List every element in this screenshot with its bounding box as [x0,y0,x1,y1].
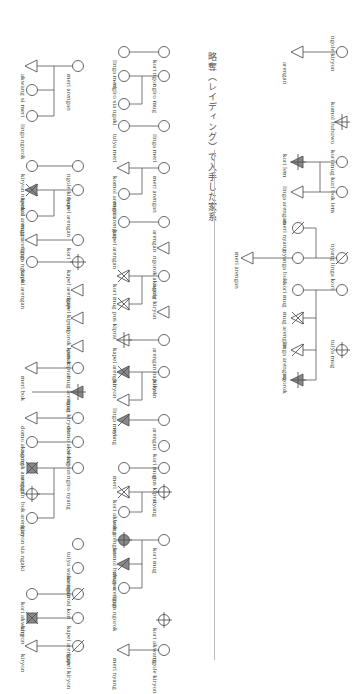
person-name-label: ngole kiryon [151,284,158,320]
person-name-label: kori ngor [151,60,158,86]
triangle-symbol-icon [25,60,37,72]
triangle-symbol-icon [291,46,303,58]
triangle-symbol-icon [241,252,253,264]
circle-symbol-icon [159,71,170,82]
person-name-label: linga meri [151,134,158,163]
person-name-label: si kori [65,602,72,620]
circle-symbol-icon [159,217,170,228]
circle-symbol-icon [27,111,38,122]
circle-symbol-icon [159,441,170,452]
circle-symbol-icon [27,161,38,172]
person-name-label: meri [111,476,118,489]
person-name-label: kori mug [151,548,158,573]
circle-symbol-icon [119,71,130,82]
person-name-label: kapel kiryon [65,654,72,689]
triangle-symbol-icon [117,644,129,656]
person-name-label: kiryon [111,380,118,398]
circle-symbol-icon [159,463,170,474]
person-name-label: kori lem [281,154,288,178]
person-name-label: nyang linga kori [329,244,336,290]
triangle-symbol-icon [291,344,304,356]
circle-symbol-icon [337,157,348,168]
person-name-label: ngole kiryon [329,36,336,72]
person-name-label: si kiryon [65,450,72,475]
circle-symbol-icon [73,613,84,624]
circle-symbol-icon [72,640,84,652]
person-name-label: arengan [151,428,158,450]
person-name-label: tulya meri [111,134,118,163]
person-name-label: nyang [111,428,118,445]
person-name-label: kapel arengan [111,230,118,269]
circle-symbol-icon [72,588,84,600]
circle-symbol-icon [73,463,84,474]
person-name-label: ngole kiryon [151,658,158,694]
person-name-label: tulya mug [329,340,336,368]
person-name-label: linga ngorok [19,124,26,160]
circle-symbol-icon [159,535,170,546]
circle-symbol-icon [73,413,84,424]
person-name-label: ngorok [281,374,288,394]
person-name-label: meri arengan [233,252,240,289]
square-symbol-icon [26,462,38,474]
person-name-label: akwang [19,74,26,96]
circle-symbol-icon [27,437,38,448]
person-name-label: arengan [19,476,26,498]
triangle-symbol-icon [291,312,304,324]
triangle-symbol-icon [25,412,37,424]
circle-symbol-icon [159,415,170,426]
circle-symbol-icon [336,252,348,264]
person-name-label: pus kiprat [65,350,72,378]
person-name-label: ngiro sia ngaki [111,84,118,126]
person-name-label: nyang [151,500,158,517]
person-name-label: meri arengan [65,74,72,111]
person-name-label: nyanga bok [281,250,288,282]
person-name-label: linga arengan [281,186,288,224]
circle-symbol-icon [337,47,348,58]
circle-symbol-icon [119,217,130,228]
circle-symbol-icon [159,121,170,132]
person-name-label: kiryon [151,380,158,398]
person-name-label: kori [65,248,72,259]
person-name-label: meri nyang [281,220,288,252]
circle-symbol-icon [337,285,348,296]
person-name-label: si meri [19,98,26,117]
person-name-label: linga ngorok [111,596,118,632]
person-name-label: kapel arengan [19,270,26,309]
circle-symbol-icon [293,253,304,264]
person-name-label: komol bubuwo [329,102,336,144]
circle-symbol-icon [119,99,130,110]
triangle-symbol-icon [117,270,130,282]
triangle-symbol-icon [25,362,37,374]
circle-symbol-icon [73,437,84,448]
person-name-label: arengan [65,576,72,598]
circle-symbol-icon [27,257,38,268]
person-name-label: ngiro nyang [65,476,72,510]
circle-symbol-icon [159,367,170,378]
circle-symbol-icon [27,85,38,96]
circle-symbol-icon [73,235,84,246]
circle-symbol-icon [73,563,84,574]
circle-symbol-icon [73,539,84,550]
circle-symbol-icon [337,187,348,198]
person-name-label: kiryon sia ngaki [19,526,26,571]
triangle-symbol-icon [291,186,303,198]
square-symbol-icon [26,612,38,624]
circle-symbol-icon [159,47,170,58]
person-name-label: meri nyang [111,658,118,690]
triangle-symbol-icon [290,154,306,170]
circle-symbol-icon [159,335,170,346]
triangle-symbol-icon [117,162,129,174]
person-name-label: meri bok [19,376,26,401]
person-name-label: meri arengan [151,176,158,213]
circle-symbol-icon [119,463,130,474]
circle-symbol-icon [27,589,38,600]
circle-symbol-icon [73,161,84,172]
person-name-label: arengan [281,62,288,84]
person-name-label: kori mug [111,284,118,309]
circle-symbol-icon [73,363,84,374]
person-name-label: ngiro mug [151,84,158,113]
circle-symbol-icon [156,612,172,628]
circle-symbol-icon [159,163,170,174]
